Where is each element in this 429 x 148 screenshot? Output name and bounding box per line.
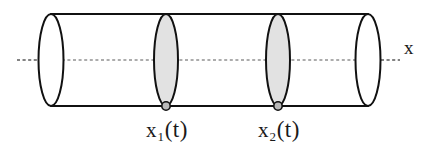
cross-section-label-2: x2(t) — [258, 118, 300, 143]
cross-section-label-1-subscript: 1 — [157, 129, 165, 144]
cross-section-label-1-symbol: x — [146, 118, 157, 142]
cylinder-diagram-svg — [0, 0, 429, 148]
cross-section-marker-dot-1 — [162, 102, 170, 110]
cylinder-left-end-cap — [39, 14, 64, 106]
cross-section-label-2-symbol: x — [258, 118, 269, 142]
cross-section-label-2-subscript: 2 — [269, 129, 277, 144]
cross-section-label-1: x1(t) — [146, 118, 188, 143]
figure-canvas: x1(t) x2(t) x — [0, 0, 429, 148]
cross-section-label-1-argument: (t) — [165, 117, 188, 142]
cross-section-marker-dot-2 — [274, 102, 282, 110]
cross-section-label-2-argument: (t) — [277, 117, 300, 142]
cross-section-ellipse-2 — [266, 14, 290, 106]
cross-section-ellipse-1 — [154, 14, 178, 106]
x-axis-label: x — [404, 38, 414, 57]
cylinder-right-end-cap — [356, 14, 381, 106]
